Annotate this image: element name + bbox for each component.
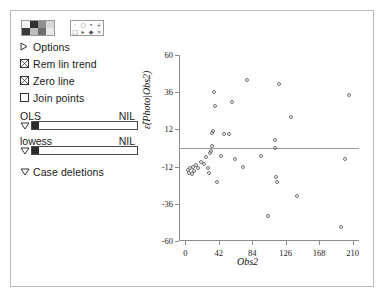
menu-item-rem-lin-trend-label: Rem lin trend: [33, 58, 97, 70]
control-panel: ·○•+□▸◆× Options Rem lin trend: [20, 19, 138, 179]
data-point[interactable]: [210, 144, 214, 148]
symbol-swatch[interactable]: ◆: [87, 28, 95, 35]
symbol-swatch[interactable]: □: [71, 28, 79, 35]
lowess-slider-fill: [32, 147, 39, 154]
data-point[interactable]: [295, 194, 299, 198]
lowess-slider-block: lowess NIL: [20, 135, 138, 155]
y-tick-label: -12: [162, 162, 173, 172]
data-point[interactable]: [241, 165, 245, 169]
x-tick-mark: [252, 241, 253, 245]
x-tick-label: 84: [248, 248, 257, 258]
data-point[interactable]: [207, 171, 211, 175]
ols-slider-block: OLS NIL: [20, 110, 138, 130]
data-point[interactable]: [259, 154, 263, 158]
data-point[interactable]: [230, 100, 234, 104]
data-point[interactable]: [273, 138, 277, 142]
symbol-swatch[interactable]: ▸: [79, 28, 87, 35]
checkbox-unchecked-icon[interactable]: [20, 93, 33, 102]
data-point[interactable]: [196, 166, 200, 170]
color-palette[interactable]: [21, 20, 55, 36]
data-point[interactable]: [339, 225, 343, 229]
lowess-slider[interactable]: [20, 146, 138, 155]
data-point[interactable]: [204, 155, 208, 159]
symbol-swatch[interactable]: ○: [79, 21, 87, 28]
color-swatch[interactable]: [38, 21, 46, 28]
y-tick-mark: [175, 167, 179, 168]
menu-item-join-points-label: Join points: [33, 92, 84, 104]
data-point[interactable]: [266, 214, 270, 218]
y-tick-mark: [175, 129, 179, 130]
x-tick-mark: [319, 241, 320, 245]
ols-slider[interactable]: [20, 121, 138, 130]
color-swatch[interactable]: [22, 21, 30, 28]
data-point[interactable]: [213, 104, 217, 108]
data-point[interactable]: [212, 90, 216, 94]
data-point[interactable]: [233, 157, 237, 161]
y-tick-mark: [175, 241, 179, 242]
menu-item-case-deletions-label: Case deletions: [33, 166, 104, 178]
checkbox-checked-icon[interactable]: [20, 76, 33, 85]
data-point[interactable]: [277, 82, 281, 86]
menu-item-options[interactable]: Options: [20, 39, 138, 54]
color-swatch[interactable]: [38, 28, 46, 35]
lowess-slider-track[interactable]: [31, 146, 138, 155]
y-tick-mark: [175, 55, 179, 56]
data-point[interactable]: [215, 180, 219, 184]
checkbox-checked-icon[interactable]: [20, 59, 33, 68]
data-point[interactable]: [227, 132, 231, 136]
data-point[interactable]: [209, 149, 213, 153]
x-tick-mark: [219, 241, 220, 245]
symbol-swatch[interactable]: +: [95, 21, 103, 28]
data-point[interactable]: [289, 115, 293, 119]
menu-item-join-points[interactable]: Join points: [20, 90, 138, 105]
scatter-plot[interactable]: ε̂(Photo|Obs2) Obs2 -60-36-12123660 0428…: [141, 51, 369, 279]
plot-window: ·○•+□▸◆× Options Rem lin trend: [10, 10, 374, 287]
x-tick-mark: [185, 241, 186, 245]
y-tick-label: -60: [162, 236, 173, 246]
triangle-down-icon[interactable]: [20, 147, 31, 155]
palette-row: ·○•+□▸◆×: [20, 19, 138, 37]
menu-item-rem-lin-trend[interactable]: Rem lin trend: [20, 56, 138, 71]
symbol-swatch[interactable]: •: [87, 21, 95, 28]
x-tick-label: 42: [215, 248, 224, 258]
menu-item-case-deletions[interactable]: Case deletions: [20, 164, 138, 179]
x-tick-mark: [286, 241, 287, 245]
y-axis-label: ε̂(Photo|Obs2): [141, 71, 152, 129]
data-point[interactable]: [206, 166, 210, 170]
x-tick-label: 0: [183, 248, 187, 258]
data-point[interactable]: [245, 78, 249, 82]
menu-item-zero-line[interactable]: Zero line: [20, 73, 138, 88]
color-swatch[interactable]: [46, 21, 54, 28]
data-point[interactable]: [202, 162, 206, 166]
y-tick-label: 12: [165, 124, 174, 134]
symbol-palette[interactable]: ·○•+□▸◆×: [70, 20, 104, 36]
y-tick-label: 60: [165, 50, 174, 60]
data-point[interactable]: [274, 175, 278, 179]
x-tick-mark: [353, 241, 354, 245]
data-point[interactable]: [192, 169, 196, 173]
data-point[interactable]: [211, 129, 215, 133]
menu-item-zero-line-label: Zero line: [33, 75, 75, 87]
data-point[interactable]: [275, 180, 279, 184]
color-swatch[interactable]: [46, 28, 54, 35]
x-tick-label: 126: [279, 248, 292, 258]
ols-slider-fill: [32, 122, 39, 129]
triangle-down-icon[interactable]: [20, 122, 31, 130]
data-point[interactable]: [219, 154, 223, 158]
plot-axes: [179, 55, 359, 241]
color-swatch[interactable]: [30, 21, 38, 28]
y-tick-label: -36: [162, 199, 173, 209]
x-tick-label: 210: [346, 248, 359, 258]
y-tick-label: 36: [165, 87, 174, 97]
ols-slider-track[interactable]: [31, 121, 138, 130]
color-swatch[interactable]: [22, 28, 30, 35]
data-point[interactable]: [343, 157, 347, 161]
triangle-right-icon: [20, 42, 33, 51]
symbol-swatch[interactable]: ×: [95, 28, 103, 35]
data-point[interactable]: [222, 132, 226, 136]
data-point[interactable]: [273, 146, 277, 150]
symbol-swatch[interactable]: ·: [71, 21, 79, 28]
color-swatch[interactable]: [30, 28, 38, 35]
y-tick-mark: [175, 92, 179, 93]
data-point[interactable]: [347, 93, 351, 97]
